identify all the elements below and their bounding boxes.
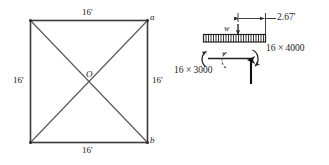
square-diagonals (31, 21, 148, 143)
beam-centerline (208, 59, 251, 77)
square-left-dimension-label: 16' (13, 76, 24, 85)
right-moment-arrow (253, 50, 259, 66)
middle-moment-arrow-dashed (222, 53, 227, 69)
center-point-label: O (86, 70, 93, 79)
distributed-load-block (204, 35, 266, 43)
offset-dimension-label: 2.67' (277, 13, 295, 23)
right-moment-label: 16 × 4000 (266, 44, 305, 54)
corner-label-a: a (150, 13, 155, 22)
square-bottom-dimension-label: 16' (82, 146, 93, 155)
square-right-dimension-label: 16' (152, 76, 163, 85)
engineering-figure: 16' 16' 16' 16' O a b w 2.67' 16 × 4000 … (0, 0, 329, 165)
dimension-extension-lines (238, 13, 266, 35)
corner-label-b: b (150, 136, 155, 145)
figure-vector-canvas (0, 0, 329, 165)
square-top-dimension-label: 16' (82, 8, 93, 17)
left-moment-label: 16 × 3000 (174, 66, 213, 76)
distributed-load-label-w: w (224, 25, 229, 33)
